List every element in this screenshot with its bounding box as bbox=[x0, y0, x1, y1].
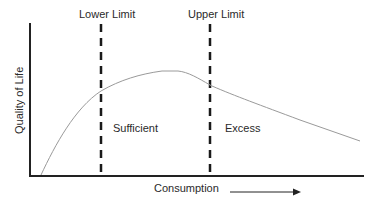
right-arrow-icon bbox=[230, 189, 301, 196]
diagram-canvas: Lower Limit Upper Limit Sufficient Exces… bbox=[0, 0, 376, 207]
lower-limit-label: Lower Limit bbox=[79, 8, 135, 20]
x-axis-label: Consumption bbox=[154, 182, 219, 194]
y-axis-label: Quality of Life bbox=[13, 67, 25, 134]
quality-of-life-curve bbox=[41, 71, 360, 175]
region-excess-label: Excess bbox=[225, 122, 261, 134]
region-sufficient-label: Sufficient bbox=[113, 122, 158, 134]
upper-limit-label: Upper Limit bbox=[188, 8, 244, 20]
